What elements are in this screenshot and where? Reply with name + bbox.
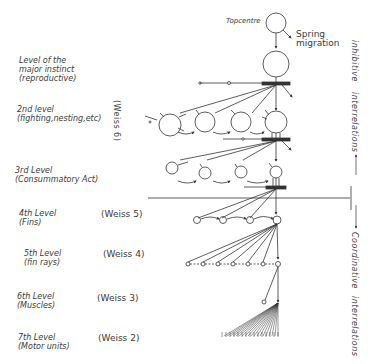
level-7-weiss: (Weiss 2) [98, 334, 139, 343]
level-2-weiss: (Weiss 6) [112, 100, 121, 141]
major-instinct-node [263, 51, 289, 77]
level-7-title: 7th Level [18, 333, 70, 342]
level-4-weiss: (Weiss 5) [101, 210, 142, 219]
coordinative-label: Coordinative [350, 232, 359, 289]
level-4-label: 4th Level (Fins) [19, 209, 56, 227]
level-3-label: 3rd Level (Consummatory Act) [15, 166, 98, 184]
level-4-sub: (Fins) [19, 218, 56, 227]
level-4-title: 4th Level [19, 209, 56, 218]
topcentre-label: Topcentre [226, 17, 261, 26]
level-3-title: 3rd Level [15, 166, 98, 175]
level-2-title: 2nd level [17, 105, 101, 114]
level-2-sub: (fighting,nesting,etc) [17, 114, 101, 123]
level-1-title: Level of the [19, 56, 76, 65]
level-5-weiss: (Weiss 4) [103, 250, 144, 259]
level-6-label: 6th Level (Muscles) [17, 292, 55, 310]
level-1-line2: major instinct [19, 65, 76, 74]
level-7-sub: (Motor units) [18, 342, 70, 351]
stimulus-label: Spring migration [296, 30, 339, 48]
inhibitive-label: inhibitive [350, 40, 359, 82]
motor-units-fan [222, 303, 278, 337]
level-5-label: 5th Level (fin rays) [24, 249, 61, 267]
level-5-sub: (fin rays) [24, 258, 61, 267]
stimulus-line2: migration [296, 39, 339, 48]
level-5-title: 5th Level [24, 249, 61, 258]
level-1-sub: (reproductive) [19, 74, 76, 83]
level-2-label: 2nd level (fighting,nesting,etc) [17, 105, 101, 123]
interrelations-upper-label: interrelations [350, 92, 359, 152]
level-6-weiss: (Weiss 3) [97, 294, 138, 303]
level-1-label: Level of the major instinct (reproductiv… [19, 56, 76, 83]
level-3-sub: (Consummatory Act) [15, 175, 98, 184]
level-7-label: 7th Level (Motor units) [18, 333, 70, 351]
level-6-sub: (Muscles) [17, 301, 55, 310]
interrelations-lower-label: interrelations [350, 296, 359, 356]
level-6-title: 6th Level [17, 292, 55, 301]
